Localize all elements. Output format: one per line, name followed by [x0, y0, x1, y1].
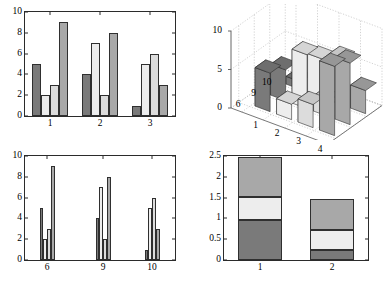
x-axis-tick-label: 9: [101, 260, 106, 273]
y-axis-tick-mark: [172, 239, 175, 240]
y-axis-tick-mark: [172, 53, 175, 54]
wall-gridline: [231, 4, 285, 31]
y-axis-tick-label: 2.5: [209, 151, 224, 161]
z-axis-tick-label: 5: [217, 65, 222, 75]
x-axis-tick-label: 2: [98, 116, 103, 129]
y-axis-tick-mark: [365, 156, 368, 157]
y-axis-tick-mark: [25, 156, 28, 157]
x-axis-tick-mark: [100, 12, 101, 15]
bar: [51, 166, 55, 260]
y-axis-tick-mark: [172, 32, 175, 33]
y-axis-tick-mark: [172, 197, 175, 198]
y-axis-tick-mark: [172, 74, 175, 75]
plot-area: [224, 156, 368, 260]
x-axis-tick-mark: [47, 156, 48, 159]
y-axis-tick-label: 6: [17, 193, 25, 203]
y-axis-tick-label: 0: [216, 255, 224, 265]
x-axis-tick-label: 10: [147, 260, 157, 273]
y-axis-tick-mark: [172, 218, 175, 219]
y-axis-tick-mark: [25, 95, 28, 96]
x-axis-tick-label: 1: [253, 121, 258, 131]
y-axis-tick-mark: [224, 197, 227, 198]
bar: [107, 177, 111, 260]
y-axis-tick-label: 8: [17, 172, 25, 182]
y-axis-tick-label: 4: [17, 70, 25, 80]
bar: [32, 64, 41, 116]
y-axis-tick-mark: [25, 74, 28, 75]
bar: [159, 85, 168, 116]
bar-segment: [238, 220, 283, 260]
bar: [41, 95, 50, 116]
y-axis-tick-mark: [224, 176, 227, 177]
x-axis-tick-mark: [50, 12, 51, 15]
figure-canvas: 0246810123 051012346910 02468106910 00.5…: [0, 0, 385, 288]
bar-face-front: [320, 61, 335, 136]
panel-bottom-right: 00.511.522.512: [193, 144, 385, 288]
z-axis-tick-label: 0: [217, 103, 222, 113]
y-axis-tick-mark: [25, 32, 28, 33]
bar3-chart: 051012346910: [197, 4, 383, 140]
panel-top-left: 0246810123: [0, 0, 192, 144]
y-axis-tick-label: 10: [13, 7, 26, 17]
bar: [82, 74, 91, 116]
y-axis-tick-mark: [365, 218, 368, 219]
x-axis-tick-label: 3: [148, 116, 153, 129]
y-axis-tick-mark: [224, 156, 227, 157]
bar-segment: [238, 197, 283, 221]
panel-top-right: 051012346910: [193, 0, 385, 144]
bar: [91, 43, 100, 116]
y-axis-tick-mark: [172, 12, 175, 13]
y-axis-tick-label: 2: [17, 90, 25, 100]
y-axis-tick-label: 2: [216, 172, 224, 182]
bar-segment: [238, 157, 283, 197]
bar: [150, 54, 159, 116]
y-axis-tick-mark: [224, 218, 227, 219]
bar-segment: [310, 199, 355, 230]
y-axis-tick-label: 9: [251, 89, 256, 99]
grouped-bar-chart-bottom-left: 02468106910: [24, 155, 176, 261]
bar: [109, 33, 118, 116]
y-axis-tick-label: 1.5: [209, 193, 224, 203]
y-axis-tick-label: 8: [17, 28, 25, 38]
bar-segment: [310, 230, 355, 250]
bar: [59, 22, 68, 116]
grouped-bar-chart-top-left: 0246810123: [24, 11, 176, 117]
stacked-bar-chart: 00.511.522.512: [223, 155, 369, 261]
bar: [100, 95, 109, 116]
bar-face-front: [255, 68, 270, 112]
bar-segment: [310, 250, 355, 260]
panel-bottom-left: 02468106910: [0, 144, 192, 288]
y-axis-tick-mark: [224, 239, 227, 240]
y-axis-tick-mark: [224, 260, 227, 261]
y-axis-tick-label: 6: [236, 100, 241, 110]
plot-area: [25, 12, 175, 116]
x-axis-tick-mark: [150, 12, 151, 15]
y-axis-tick-mark: [172, 156, 175, 157]
x-axis-tick-mark: [103, 156, 104, 159]
x-axis-tick-mark: [332, 156, 333, 159]
x-axis-tick-label: 1: [48, 116, 53, 129]
y-axis-tick-label: 10: [262, 78, 272, 88]
y-axis-tick-mark: [365, 239, 368, 240]
x-axis-tick-label: 2: [330, 260, 335, 273]
plot-area: [25, 156, 175, 260]
y-axis-tick-mark: [365, 197, 368, 198]
y-axis-tick-label: 0: [17, 255, 25, 265]
x-axis-tick-label: 1: [258, 260, 263, 273]
bar: [132, 106, 141, 116]
y-axis-tick-label: 2: [17, 234, 25, 244]
y-axis-tick-mark: [25, 260, 28, 261]
y-axis-tick-mark: [172, 176, 175, 177]
y-axis-tick-mark: [25, 197, 28, 198]
y-axis-tick-mark: [25, 176, 28, 177]
y-axis-tick-label: 0: [17, 111, 25, 121]
y-axis-tick-mark: [172, 116, 175, 117]
y-axis-tick-mark: [25, 116, 28, 117]
x-axis-tick-mark: [152, 156, 153, 159]
y-axis-tick-mark: [25, 12, 28, 13]
y-axis-tick-label: 1: [216, 214, 224, 224]
bar: [50, 85, 59, 116]
x-axis-tick-label: 6: [45, 260, 50, 273]
y-axis-tick-label: 10: [13, 151, 26, 161]
y-axis-tick-label: 6: [17, 49, 25, 59]
